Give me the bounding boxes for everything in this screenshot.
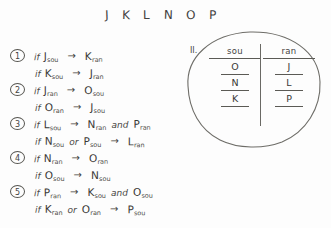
rule-if-keyword: if [35, 68, 41, 78]
rule-term: Osou [45, 168, 65, 182]
table-cell-value: P [275, 93, 303, 107]
rule-term-subscript: sou [141, 191, 153, 199]
rule-connective: and [110, 119, 129, 129]
rule-term: Pran [44, 186, 61, 200]
implication-arrow-icon: → [67, 66, 85, 77]
rule-term-subscript: sou [94, 191, 106, 199]
table-row: N L [208, 76, 316, 92]
rule-term: Nran [44, 152, 63, 166]
implication-arrow-icon: → [68, 100, 86, 111]
rule-if-keyword: if [34, 120, 40, 130]
rule-term-subscript: sou [99, 175, 111, 183]
implication-arrow-icon: → [62, 49, 80, 60]
rule-term-subscript: sou [93, 89, 105, 97]
rule-term: Oran [82, 202, 101, 216]
column-header-sou-label: sou [209, 45, 261, 59]
rule-body: ifLsou→NranandPran [34, 117, 151, 132]
rule-body: ifPran→KsouandOsou [34, 185, 153, 200]
rule-body: ifKsou→Jran [35, 66, 104, 80]
rule-body: ifOsou→Nsou [35, 168, 111, 182]
entity-letter: J [105, 8, 110, 22]
rule-line: ifKranorOran→Psou [8, 201, 208, 218]
implication-arrow-icon: → [105, 203, 123, 214]
column-header-ran-label: ran [263, 45, 315, 59]
rule-term-subscript: ran [97, 157, 108, 165]
rule-term-subscript: sou [90, 141, 102, 149]
rule-if-keyword: if [35, 136, 41, 146]
column-header-ran: ran [262, 44, 316, 60]
rule-term: Ksou [45, 66, 64, 80]
handwritten-notes-page: J K L N O P 1ifJsou→KranifKsou→Jran2ifJr… [0, 0, 331, 228]
table-row: O J [208, 60, 316, 76]
rule-number-badge: 4 [10, 151, 25, 164]
rule-term: Nran [88, 117, 107, 131]
entity-letter: L [143, 8, 150, 22]
rule-term-letter: K [45, 66, 52, 78]
rule-line: ifOsou→Nsou [8, 167, 208, 184]
rule-term: Psou [127, 203, 145, 217]
rule-term: Osou [133, 185, 153, 199]
entity-letter: O [186, 8, 197, 22]
assignment-table: sou ran O J N L K P [208, 44, 316, 108]
table-cell-value: K [221, 93, 249, 107]
rule-term-subscript: ran [92, 55, 103, 63]
rule-term-letter: O [82, 202, 91, 214]
entity-letter: N [163, 8, 173, 22]
table-cell-ran: L [262, 76, 316, 92]
rule-term-subscript: sou [50, 124, 62, 132]
rule-term: Oran [45, 100, 64, 114]
rule-body: ifOran→Jsou [35, 100, 105, 114]
rule-term: Oran [89, 151, 108, 165]
table-cell-ran: J [262, 60, 316, 76]
table-row: K P [208, 92, 316, 108]
rule-term-subscript: ran [50, 192, 61, 200]
rule-term: Jran [44, 84, 58, 98]
entity-letter: K [122, 8, 131, 22]
implication-arrow-icon: → [65, 186, 83, 197]
implication-arrow-icon: → [69, 168, 87, 179]
rule-term-subscript: sou [47, 56, 59, 64]
rule-term-letter: N [91, 169, 99, 181]
rule-term: Jsou [90, 101, 105, 115]
rule-term-letter: O [84, 83, 93, 95]
rule-connective: or [67, 204, 78, 214]
table-cell-value: O [221, 61, 249, 75]
rule-if-keyword: if [35, 204, 41, 214]
rule-term: Jsou [44, 50, 59, 64]
rule-term-subscript: ran [140, 123, 151, 131]
rule-connective: and [110, 187, 129, 197]
rule-body: ifJsou→Kran [34, 49, 103, 63]
rule-number-badge: 2 [10, 83, 25, 96]
rule-term-letter: K [45, 202, 52, 214]
entity-letter-row: J K L N O P [105, 8, 217, 22]
rule-term: Osou [84, 83, 104, 97]
table-label: II. [190, 46, 197, 55]
implication-arrow-icon: → [105, 135, 123, 146]
rule-term-letter: O [45, 168, 54, 180]
rule-term: Ksou [87, 185, 106, 199]
rule-term-subscript: ran [93, 73, 104, 81]
table-cell-value: J [275, 61, 303, 75]
table-cell-ran: P [262, 92, 316, 108]
rule-body: ifKranorOran→Psou [35, 202, 145, 216]
rule-if-keyword: if [34, 86, 40, 96]
implication-arrow-icon: → [62, 83, 80, 94]
rule-term-subscript: ran [134, 141, 145, 149]
rule-term-subscript: sou [53, 140, 65, 148]
sou-ran-table: II. sou ran O J N L [190, 44, 318, 108]
table-cell-value: N [221, 77, 249, 91]
rule-term: Lran [128, 135, 145, 149]
rule-number-badge: 5 [10, 185, 25, 198]
implication-arrow-icon: → [65, 118, 83, 129]
rule-term-letter: N [45, 134, 53, 146]
rule-term-subscript: sou [52, 72, 64, 80]
rule-term-letter: K [85, 49, 92, 61]
rule-body: ifNsouorPsou→Lran [35, 134, 145, 148]
rule-term: Lsou [44, 118, 62, 132]
rule-if-keyword: if [34, 188, 40, 198]
implication-arrow-icon: → [66, 151, 84, 162]
rule-term-subscript: ran [52, 208, 63, 216]
rule-term: Kran [85, 49, 103, 63]
rule-term-letter: N [44, 152, 52, 164]
rule-body: ifNran→Oran [34, 151, 108, 165]
